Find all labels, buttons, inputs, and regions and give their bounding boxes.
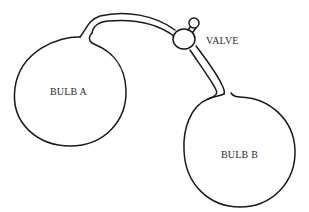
two-bulb-valve-diagram: VALVE BULB A BULB B <box>0 0 309 212</box>
bulb-a-label: BULB A <box>50 86 88 97</box>
tube-lower-inner <box>190 50 217 99</box>
tube-lower-outer <box>196 46 224 94</box>
bulb-b-label: BULB B <box>221 149 258 160</box>
valve <box>173 18 199 49</box>
valve-knob-icon <box>189 18 199 28</box>
tube-outer-edge <box>80 14 175 37</box>
valve-body <box>173 29 195 49</box>
valve-label: VALVE <box>206 35 239 46</box>
